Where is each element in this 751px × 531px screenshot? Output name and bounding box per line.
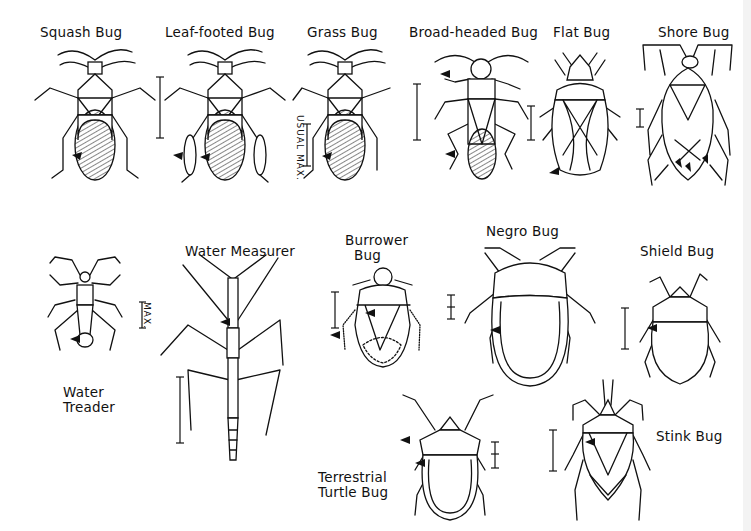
burrower-bug-illustration [335,255,430,370]
label-flat-bug: Flat Bug [553,25,610,40]
scale-label-max: MAX. [142,302,152,329]
label-grass-bug: Grass Bug [307,25,378,40]
label-broad-headed-bug: Broad-headed Bug [409,25,538,40]
broad-headed-bug-illustration [420,44,540,184]
leaf-footed-bug-illustration [160,40,290,185]
label-squash-bug: Squash Bug [40,25,122,40]
shore-bug-illustration [640,40,735,190]
negro-bug-illustration [455,238,605,388]
label-terrestrial-turtle-bug: Terrestrial Turtle Bug [318,470,388,500]
water-measurer-illustration [158,260,288,465]
grass-bug-illustration [290,40,400,185]
flat-bug-illustration [535,45,625,180]
label-stink-bug: Stink Bug [656,429,722,444]
stink-bug-illustration [555,375,660,525]
label-leaf-footed-bug: Leaf-footed Bug [165,25,275,40]
label-water-treader: Water Treader [63,385,115,415]
water-treader-illustration [30,255,140,355]
shield-bug-illustration [625,262,735,387]
scale-bar [490,440,500,470]
page-edge [743,0,751,531]
label-negro-bug: Negro Bug [486,224,559,239]
label-shield-bug: Shield Bug [640,244,714,259]
label-shore-bug: Shore Bug [658,25,729,40]
terrestrial-turtle-bug-illustration [395,385,505,525]
squash-bug-illustration [30,40,160,185]
